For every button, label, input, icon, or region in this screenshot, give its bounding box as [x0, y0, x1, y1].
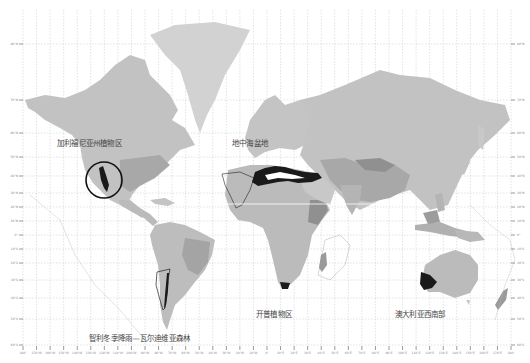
longitude-label: 130°W — [85, 351, 97, 355]
longitude-label: 90°E — [383, 351, 395, 355]
region-label-mediterranean: 地中海盆地 — [232, 137, 268, 148]
longitude-label: 10°W — [247, 351, 259, 355]
longitude-label: 70°E — [356, 351, 368, 355]
latitude-label: 20°N — [4, 205, 18, 209]
latitude-label: 50°N — [4, 155, 18, 159]
latitude-label-right: 70°N — [517, 98, 525, 102]
longitude-label: 0° — [261, 351, 273, 355]
latitude-label: 0° — [4, 233, 18, 237]
longitude-label: 30°E — [302, 351, 314, 355]
borneo — [423, 210, 440, 224]
latitude-label-right: 40°N — [517, 174, 525, 178]
longitude-label: 10°E — [275, 351, 287, 355]
longitude-label: 110°W — [112, 351, 124, 355]
longitude-label: 140°W — [71, 351, 83, 355]
longitude-label: 60°W — [180, 351, 192, 355]
longitude-label: 30°W — [220, 351, 232, 355]
latitude-label: 20°S — [4, 261, 18, 265]
latitude-label-right: 30°N — [517, 191, 525, 195]
latitude-label-right: 0° — [517, 233, 520, 237]
latitude-label: 30°N — [4, 191, 18, 195]
australia — [422, 250, 478, 298]
region-label-cape: 开普植物区 — [256, 308, 292, 319]
latitude-label-right: 50°S — [517, 317, 524, 321]
latitude-label: 30°S — [4, 278, 18, 282]
region-label-chile: 智利冬季降雨—瓦尔迪维亚森林 — [89, 332, 190, 343]
cape-hotspot — [280, 282, 290, 289]
india — [340, 185, 362, 215]
latitude-label-right: 20°N — [517, 205, 525, 209]
new-zealand — [495, 288, 508, 310]
north-america-south — [120, 155, 170, 192]
longitude-label: 180° — [17, 351, 29, 355]
longitude-label: 170°E — [491, 351, 503, 355]
tasmania — [466, 300, 470, 305]
longitude-label: 160°W — [44, 351, 56, 355]
latitude-label: 40°N — [4, 174, 18, 178]
longitude-label: 150°W — [58, 351, 70, 355]
longitude-label: 150°E — [464, 351, 476, 355]
central-america — [118, 200, 158, 226]
pacific-islands-outline — [470, 205, 515, 320]
longitude-label: 110°E — [410, 351, 422, 355]
pacific-outline — [30, 195, 145, 340]
latitude-label: 80°N — [4, 42, 18, 46]
longitude-label: 120°W — [98, 351, 110, 355]
longitude-label: 20°E — [288, 351, 300, 355]
longitude-label: 100°W — [125, 351, 137, 355]
latitude-label-right: 10°N — [517, 219, 525, 223]
caribbean — [150, 198, 175, 206]
region-label-california: 加利福尼亚州植物区 — [57, 137, 122, 148]
latitude-label: 10°S — [4, 247, 18, 251]
longitude-label: 60°E — [342, 351, 354, 355]
europe — [245, 95, 310, 158]
latitude-label-right: 60°N — [517, 131, 525, 135]
longitude-label: 70°W — [166, 351, 178, 355]
longitude-label: 50°W — [193, 351, 205, 355]
latitude-label-right: 50°N — [517, 155, 525, 159]
latitude-label-right: 10°S — [517, 247, 524, 251]
longitude-label: 130°E — [437, 351, 449, 355]
longitude-label: 80°W — [153, 351, 165, 355]
latitude-label: 50°S — [4, 317, 18, 321]
latitude-label: 40°S — [4, 296, 18, 300]
latitude-label: 60°S — [4, 343, 18, 347]
longitude-label: 170°W — [31, 351, 43, 355]
longitude-label: 40°W — [207, 351, 219, 355]
latitude-label-right: 20°S — [517, 261, 524, 265]
latitude-label: 60°N — [4, 131, 18, 135]
latitude-label: 70°N — [4, 98, 18, 102]
latitude-label-right: 80°N — [517, 42, 525, 46]
longitude-label: 40°E — [315, 351, 327, 355]
longitude-label: 20°W — [234, 351, 246, 355]
longitude-label: 90°W — [139, 351, 151, 355]
longitude-label: 50°E — [329, 351, 341, 355]
latitude-label-right: 60°S — [517, 343, 524, 347]
south-america — [150, 222, 215, 330]
latitude-label-right: 40°S — [517, 296, 524, 300]
latitude-label: 10°N — [4, 219, 18, 223]
new-guinea — [455, 230, 485, 242]
latitude-label-right: 30°S — [517, 278, 524, 282]
longitude-label: 160°E — [478, 351, 490, 355]
longitude-label: 180° — [505, 351, 517, 355]
longitude-ticks — [23, 346, 511, 350]
region-label-sw-australia: 澳大利亚西南部 — [395, 308, 445, 319]
longitude-label: 100°E — [397, 351, 409, 355]
longitude-label: 80°E — [369, 351, 381, 355]
longitude-label: 120°E — [424, 351, 436, 355]
longitude-label: 140°E — [451, 351, 463, 355]
madagascar — [319, 252, 327, 272]
